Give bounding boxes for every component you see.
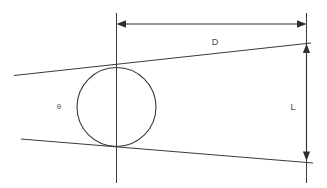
beam-geometry-diagram: D L θ: [0, 0, 327, 188]
diagram-canvas: D L θ: [0, 0, 327, 188]
distance-left-arrowhead-icon: [117, 20, 127, 28]
spotsize-bottom-arrowhead-icon: [303, 152, 310, 162]
angle-label: θ: [57, 102, 62, 111]
lower-divergence-ray: [21, 139, 313, 163]
distance-right-arrowhead-icon: [297, 20, 307, 28]
upper-divergence-ray: [14, 43, 311, 76]
distance-label: D: [212, 37, 219, 47]
spot-size-label: L: [290, 102, 295, 112]
spotsize-top-arrowhead-icon: [303, 44, 310, 54]
